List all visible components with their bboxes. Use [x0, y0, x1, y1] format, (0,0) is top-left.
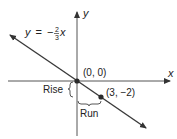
graph-line — [10, 35, 60, 69]
equation-label: y = − — [24, 26, 54, 38]
equation-fraction-num: 2 — [55, 26, 59, 33]
run-brace — [78, 101, 101, 106]
run-label: Run — [80, 108, 98, 119]
point-3-neg2 — [98, 94, 103, 99]
rise-label: Rise — [43, 84, 63, 95]
equation-x: x — [59, 26, 66, 38]
origin-point — [74, 78, 79, 83]
y-axis-label: y — [82, 7, 90, 19]
rise-brace — [68, 82, 73, 97]
x-axis-label: x — [167, 67, 174, 79]
equation-fraction-den: 3 — [55, 34, 59, 41]
origin-label: (0, 0) — [83, 67, 106, 78]
slope-diagram: y = − 2 3 x y x (0, 0) (3, −2) Rise Run — [0, 0, 177, 139]
point-label: (3, −2) — [106, 87, 135, 98]
